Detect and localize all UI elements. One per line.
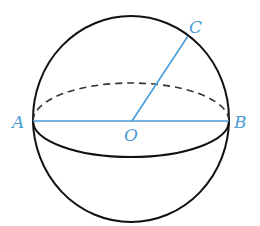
label-c: C xyxy=(189,17,202,37)
label-b: B xyxy=(233,112,247,132)
sphere-outline xyxy=(33,16,229,222)
radius-oc xyxy=(132,36,188,121)
label-a: A xyxy=(10,112,24,132)
equator-back-dashed xyxy=(33,83,229,121)
sphere-diagram: A B C O xyxy=(0,0,260,226)
label-o: O xyxy=(124,125,138,145)
